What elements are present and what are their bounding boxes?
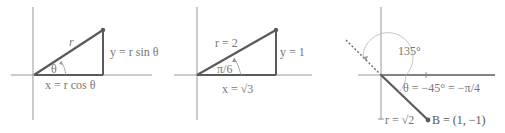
hypotenuse-label: r = 2 <box>215 36 238 50</box>
point-b-dot <box>426 118 431 123</box>
point-dot <box>274 28 278 32</box>
opposite-label: y = 1 <box>280 45 305 59</box>
angle-label: π/6 <box>217 62 232 76</box>
radius-label: r = √2 <box>385 113 414 127</box>
angle-label: θ = −45° = −π/4 <box>403 81 480 95</box>
panel-negative-angle: 135° θ = −45° = −π/4 r = √2 B = (1, −1) <box>346 7 495 127</box>
angle-label: θ <box>51 62 57 76</box>
opposite-label: y = r sin θ <box>110 45 159 59</box>
adjacent-label: x = √3 <box>222 82 253 96</box>
panel-general: r y = r sin θ θ x = r cos θ <box>11 7 159 120</box>
point-b-label: B = (1, −1) <box>432 113 486 127</box>
polar-coordinates-diagram: r y = r sin θ θ x = r cos θ r = 2 y = 1 … <box>0 0 505 133</box>
panel-example: r = 2 y = 1 π/6 x = √3 <box>174 7 312 120</box>
point-dot <box>101 28 105 32</box>
adjacent-label: x = r cos θ <box>45 78 96 92</box>
outer-angle-label: 135° <box>398 44 421 58</box>
hypotenuse-label: r <box>69 35 74 49</box>
